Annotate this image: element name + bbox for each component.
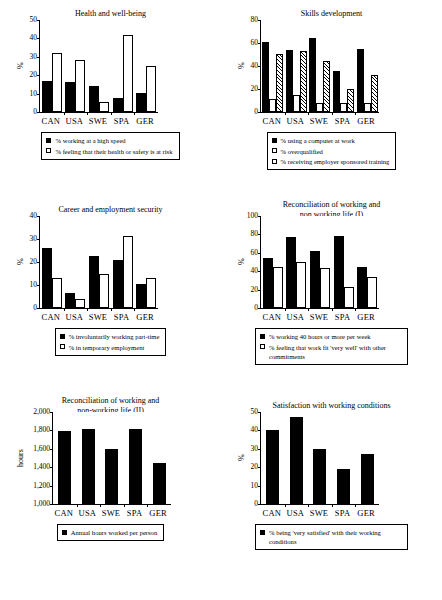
bar-group [111,216,135,308]
x-tick-mark [64,112,65,115]
legend-item[interactable]: % working at a high speed [46,136,172,145]
bar-group [40,20,64,112]
y-tick-label: 20 [30,71,38,79]
bar [371,75,378,112]
x-tick-label: GER [133,116,157,126]
bar-series-container [261,20,379,112]
chart-cell-career-and-employment-security: Career and employment security%010203040… [0,196,221,392]
bar [113,98,123,112]
x-tick-mark [111,308,112,311]
y-axis-label: % [235,20,247,112]
bar [65,82,75,112]
bar [357,49,364,112]
y-tick-label: 20 [251,286,259,294]
legend-swatch-open-icon [272,148,277,153]
y-tick-label: 2,000 [33,408,50,416]
legend-item[interactable]: % feeling that work fit 'very well' with… [260,343,401,361]
bar [296,262,306,308]
bar-series-container [261,216,379,308]
y-tick-mark [50,504,53,505]
bar [113,260,123,308]
legend-swatch-solid-icon [260,530,265,535]
bar [269,99,276,112]
legend-label: % in temporary employment [69,343,145,352]
y-tick-label: 60 [251,249,259,257]
chart-legend: % working 40 hours or more per week% fee… [255,328,408,365]
x-axis-labels: CANUSASWESPAGER [52,505,170,518]
x-tick-label: USA [63,312,87,322]
bar-group [134,20,158,112]
x-tick-label: SPA [331,116,355,126]
legend-item[interactable]: % feeling that their health or safety is… [46,147,172,156]
bar [89,86,99,112]
y-axis-ticks: 01020304050 [26,20,39,112]
x-tick-mark [87,308,88,311]
bar [337,469,350,504]
bar [52,278,62,308]
legend-item[interactable]: % using a computer at work [272,136,390,145]
legend-container: Annual hours worked per person [0,524,221,541]
plot-area: %020406080 [235,20,442,113]
y-tick-label: 1,600 [33,445,50,453]
bar [262,42,269,112]
bar [129,429,142,504]
legend-item[interactable]: % overqualified [272,147,390,156]
y-tick-label: 20 [30,258,38,266]
chart-legend: % involuntarily working part-time% in te… [55,328,167,356]
x-tick-mark [332,112,333,115]
y-tick-label: 40 [251,62,259,70]
x-tick-mark [87,112,88,115]
legend-item[interactable]: % involuntarily working part-time [60,332,160,341]
bar [309,38,316,112]
legend-swatch-open-icon [46,148,51,153]
bar [99,274,109,309]
chart-grid: Health and well-being%01020304050CANUSAS… [0,0,442,600]
chart-legend: Annual hours worked per person [57,524,164,541]
legend-swatch-open-icon [60,344,65,349]
plot-area: %01020304050 [235,412,442,505]
figure-sheet: Health and well-being%01020304050CANUSAS… [0,0,442,600]
legend-item[interactable]: Annual hours worked per person [62,528,157,537]
legend-item[interactable]: % receiving employer sponsored training [272,157,390,166]
bar-group [332,20,356,112]
y-tick-label: 30 [30,235,38,243]
bar [42,248,52,308]
y-axis-ticks: 020406080100 [247,216,260,308]
bar-group [261,20,285,112]
bar-group [261,216,285,308]
legend-label: % involuntarily working part-time [69,332,160,341]
plot-canvas [260,216,379,309]
bar [146,66,156,112]
x-tick-mark [111,112,112,115]
y-tick-label: 10 [251,482,259,490]
y-tick-label: 50 [251,408,259,416]
bar [290,417,303,504]
bar [136,93,146,112]
y-tick-mark [37,112,40,113]
bar-group [308,20,332,112]
x-tick-label: CAN [260,312,284,322]
x-tick-label: SPA [331,508,355,518]
legend-label: % feeling that work fit 'very well' with… [269,343,401,361]
bar-group [100,412,124,504]
bar [153,463,166,504]
bar [276,54,283,112]
x-tick-label: SWE [307,508,331,518]
bar [300,51,307,112]
y-tick-mark [258,504,261,505]
legend-item[interactable]: % being 'very satisfied' with their work… [260,528,401,546]
legend-label: Annual hours worked per person [71,528,157,537]
x-tick-label: GER [354,508,378,518]
x-axis-labels: CANUSASWESPAGER [39,113,157,126]
bar [42,81,52,112]
legend-item[interactable]: % in temporary employment [60,343,160,352]
plot-area: %01020304050 [14,20,221,113]
x-tick-label: CAN [52,508,76,518]
legend-item[interactable]: % working 40 hours or more per week [260,332,401,341]
x-tick-label: SWE [99,508,123,518]
plot-area: hours1,0001,2001,4001,6001,8002,000 [14,412,221,505]
bar-group [355,412,379,504]
bar-group [87,20,111,112]
bar [333,71,340,112]
x-tick-label: SPA [331,312,355,322]
